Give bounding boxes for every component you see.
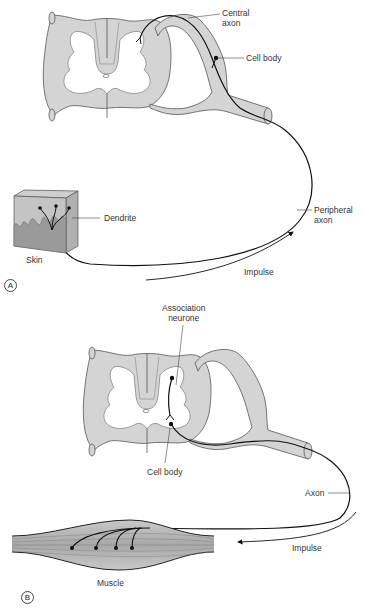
label-skin: Skin	[26, 255, 43, 265]
association-neurone-body	[170, 376, 174, 380]
label-dendrite: Dendrite	[104, 213, 136, 223]
panel-b	[12, 325, 356, 570]
spinal-cord-b	[83, 347, 312, 459]
panel-letter-a: A	[4, 279, 17, 292]
label-central-axon: Central axon	[222, 8, 249, 28]
label-impulse-b: Impulse	[292, 543, 322, 553]
panel-letter-b: B	[21, 591, 34, 604]
reflex-arc-figure: Central axon Cell body Dendrite Skin Per…	[0, 0, 367, 609]
skin-block	[14, 190, 78, 253]
label-association-neurone: Association neurone	[162, 303, 205, 323]
label-cell-body-a: Cell body	[246, 53, 281, 63]
muscle	[12, 520, 214, 570]
label-cell-body-b: Cell body	[147, 467, 182, 477]
label-peripheral-axon: Peripheral axon	[314, 205, 353, 225]
label-impulse-a: Impulse	[244, 267, 274, 277]
label-muscle: Muscle	[97, 578, 124, 588]
label-axon: Axon	[305, 488, 324, 498]
